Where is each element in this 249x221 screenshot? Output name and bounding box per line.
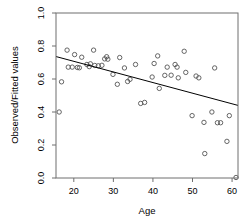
x-axis-title: Age: [139, 205, 156, 216]
y-tick-label: 0.8: [36, 40, 46, 53]
y-tick-label: 0.4: [36, 106, 46, 119]
y-tick-label: 1.0: [36, 7, 46, 20]
x-tick-label: 50: [187, 186, 197, 196]
chart-canvas: 0.00.20.40.60.81.0 2030405060 Observed/F…: [0, 0, 249, 221]
x-tick-label: 30: [108, 186, 118, 196]
x-tick-label: 20: [69, 186, 79, 196]
x-tick-label: 60: [227, 186, 237, 196]
x-tick-label: 40: [148, 186, 158, 196]
y-tick-label: 0.0: [36, 172, 46, 185]
y-tick-label: 0.6: [36, 73, 46, 86]
scatter-plot-figure: 0.00.20.40.60.81.0 2030405060 Observed/F…: [0, 0, 249, 221]
y-tick-label: 0.2: [36, 139, 46, 152]
y-axis-title: Observed/Fitted values: [9, 46, 20, 144]
